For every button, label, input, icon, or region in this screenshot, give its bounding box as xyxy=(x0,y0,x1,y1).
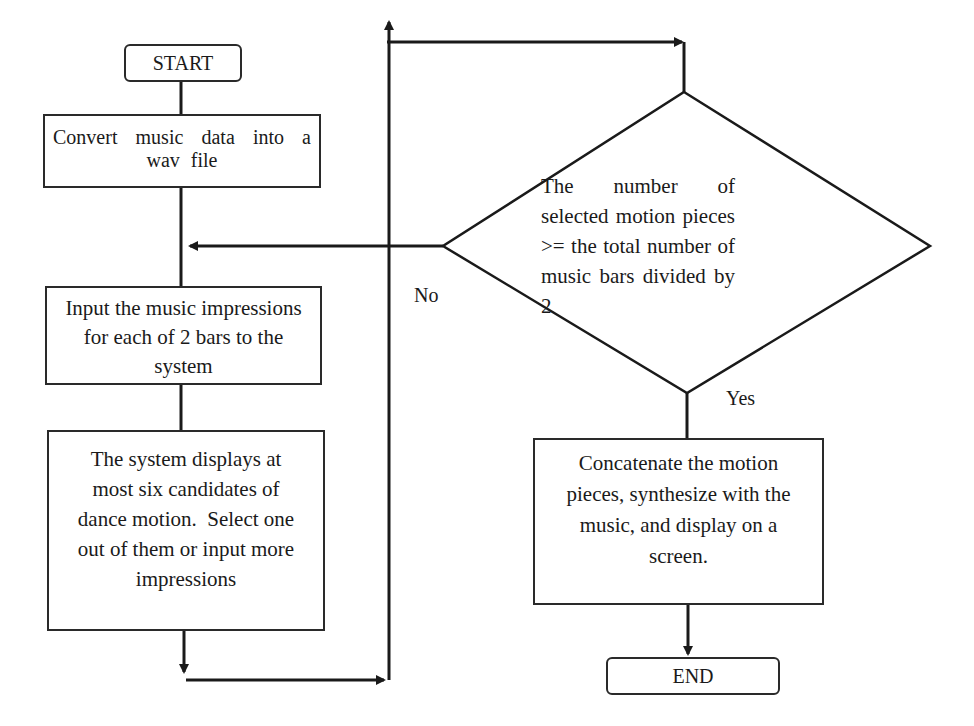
display-text: The system displays at most six candidat… xyxy=(77,444,295,594)
end-label: END xyxy=(672,665,713,688)
no-label: No xyxy=(414,284,438,307)
concatenate-step: Concatenate the motion pieces, synthesiz… xyxy=(533,438,824,605)
start-label: START xyxy=(153,52,214,75)
input-text: Input the music impressions for each of … xyxy=(61,294,306,381)
concatenate-text: Concatenate the motion pieces, synthesiz… xyxy=(555,448,802,572)
convert-text: Convert music data into a wav file xyxy=(53,126,311,172)
convert-step: Convert music data into a wav file xyxy=(43,114,321,188)
decision-label: The number of selected motion pieces >= … xyxy=(541,174,735,318)
yes-label: Yes xyxy=(726,387,755,410)
display-step: The system displays at most six candidat… xyxy=(47,430,325,631)
end-terminal: END xyxy=(606,657,780,695)
input-step: Input the music impressions for each of … xyxy=(45,286,322,385)
decision-text: The number of selected motion pieces >= … xyxy=(541,171,735,321)
start-terminal: START xyxy=(124,44,242,82)
